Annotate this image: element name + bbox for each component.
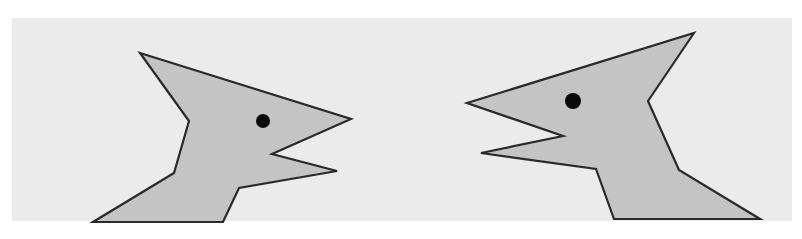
left-head-shape [93, 53, 351, 222]
left-eye-icon [256, 114, 270, 128]
right-bird-head [467, 33, 760, 219]
right-eye-icon [565, 93, 581, 109]
left-bird-head [93, 53, 351, 222]
right-head-shape [467, 33, 760, 219]
illustration-stage [0, 0, 802, 239]
illustration-canvas [0, 0, 802, 239]
